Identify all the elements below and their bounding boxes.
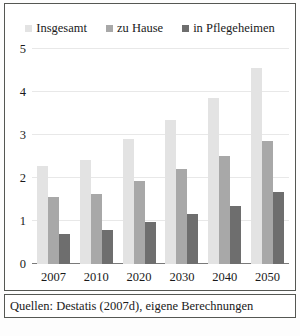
- bar-1: [37, 166, 48, 264]
- figure-container: Insgesamtzu Hausein Pflegeheimen 012345 …: [0, 0, 300, 336]
- bar-1: [208, 98, 219, 264]
- bar-group: 2020: [118, 49, 161, 264]
- bar-3: [273, 192, 284, 264]
- bar-1: [123, 139, 134, 264]
- bar-2: [48, 197, 59, 264]
- legend-item-2[interactable]: zu Hause: [106, 22, 163, 35]
- bar-2: [134, 181, 145, 264]
- legend-label: zu Hause: [117, 22, 163, 35]
- legend-swatch-icon-3: [182, 25, 189, 32]
- y-axis-tick-label: 2: [20, 171, 26, 184]
- y-axis-tick-label: 4: [20, 85, 26, 98]
- x-axis-tick-label: 2007: [32, 271, 75, 284]
- chart-frame: Insgesamtzu Hausein Pflegeheimen 012345 …: [4, 3, 296, 291]
- x-axis-tick-label: 2020: [118, 271, 161, 284]
- bar-3: [230, 206, 241, 264]
- bar-group: 2040: [203, 49, 246, 264]
- legend-swatch-icon-2: [106, 25, 113, 32]
- bar-groups: 200720102020203020402050: [32, 49, 289, 264]
- bar-group: 2050: [246, 49, 289, 264]
- bar-2: [176, 169, 187, 264]
- bar-1: [165, 120, 176, 264]
- plot-area: 012345 200720102020203020402050: [32, 49, 289, 264]
- legend-label: in Pflegeheimen: [193, 22, 275, 35]
- y-axis-tick-label: 3: [20, 128, 26, 141]
- chart-legend: Insgesamtzu Hausein Pflegeheimen: [5, 18, 295, 38]
- source-note-text: Quellen: Destatis (2007d), eigene Berech…: [10, 300, 253, 313]
- bar-2: [91, 194, 102, 264]
- bar-group: 2010: [75, 49, 118, 264]
- source-note-box: Quellen: Destatis (2007d), eigene Berech…: [4, 294, 296, 318]
- bar-1: [251, 68, 262, 264]
- legend-label: Insgesamt: [36, 22, 87, 35]
- bar-group: 2007: [32, 49, 75, 264]
- legend-item-1[interactable]: Insgesamt: [25, 22, 87, 35]
- bar-3: [187, 214, 198, 264]
- x-axis-tick-label: 2040: [203, 271, 246, 284]
- x-axis-tick-label: 2010: [75, 271, 118, 284]
- y-axis-tick-label: 5: [20, 42, 26, 55]
- x-axis-tick-label: 2030: [160, 271, 203, 284]
- bar-3: [102, 230, 113, 264]
- bar-2: [219, 156, 230, 264]
- x-axis-tick-label: 2050: [246, 271, 289, 284]
- bar-2: [262, 141, 273, 264]
- bar-3: [59, 234, 70, 264]
- bar-1: [80, 160, 91, 264]
- legend-swatch-icon-1: [25, 25, 32, 32]
- bar-group: 2030: [160, 49, 203, 264]
- y-axis-tick-label: 0: [20, 257, 26, 270]
- y-axis-tick-label: 1: [20, 214, 26, 227]
- bar-3: [145, 222, 156, 264]
- legend-item-3[interactable]: in Pflegeheimen: [182, 22, 275, 35]
